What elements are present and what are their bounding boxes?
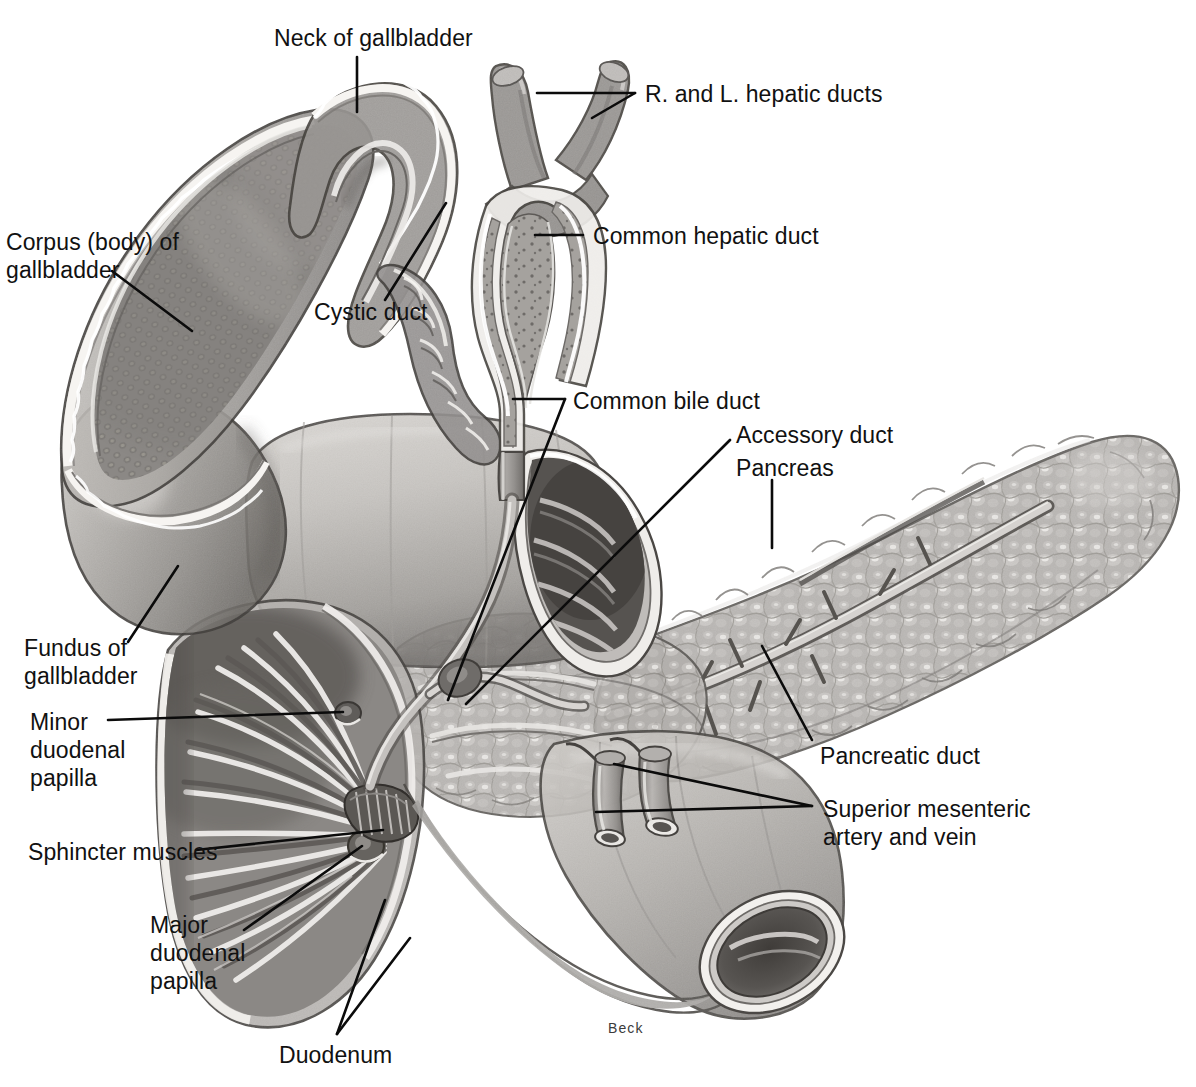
label-fundus-gallbladder-line2: gallbladder bbox=[24, 662, 138, 690]
label-major-duodenal-papilla: Major duodenal papilla bbox=[150, 911, 245, 995]
label-superior-mesenteric: Superior mesenteric artery and vein bbox=[823, 795, 1031, 851]
label-superior-mesenteric-line1: Superior mesenteric bbox=[823, 795, 1031, 823]
label-major-papilla-line1: Major bbox=[150, 911, 245, 939]
label-hepatic-ducts: R. and L. hepatic ducts bbox=[645, 80, 883, 108]
label-superior-mesenteric-line2: artery and vein bbox=[823, 823, 1031, 851]
label-major-papilla-line3: papilla bbox=[150, 967, 245, 995]
label-cystic-duct: Cystic duct bbox=[314, 298, 428, 326]
label-minor-papilla-line3: papilla bbox=[30, 764, 125, 792]
anatomical-figure: Neck of gallbladder R. and L. hepatic du… bbox=[0, 0, 1196, 1087]
artist-signature: Beck bbox=[608, 1020, 644, 1036]
label-pancreatic-duct: Pancreatic duct bbox=[820, 742, 980, 770]
label-fundus-gallbladder-line1: Fundus of bbox=[24, 634, 138, 662]
label-major-papilla-line2: duodenal bbox=[150, 939, 245, 967]
label-sphincter-muscles: Sphincter muscles bbox=[28, 838, 218, 866]
label-minor-papilla-line2: duodenal bbox=[30, 736, 125, 764]
label-minor-papilla-line1: Minor bbox=[30, 708, 125, 736]
label-duodenum: Duodenum bbox=[279, 1041, 392, 1069]
label-corpus-gallbladder-line1: Corpus (body) of bbox=[6, 228, 179, 256]
label-common-bile-duct: Common bile duct bbox=[573, 387, 760, 415]
label-accessory-duct: Accessory duct bbox=[736, 421, 893, 449]
label-neck-of-gallbladder: Neck of gallbladder bbox=[274, 24, 473, 52]
label-common-hepatic-duct: Common hepatic duct bbox=[593, 222, 819, 250]
label-corpus-gallbladder-line2: gallbladder bbox=[6, 256, 179, 284]
label-corpus-gallbladder: Corpus (body) of gallbladder bbox=[6, 228, 179, 284]
label-minor-duodenal-papilla: Minor duodenal papilla bbox=[30, 708, 125, 792]
label-pancreas: Pancreas bbox=[736, 454, 834, 482]
label-fundus-gallbladder: Fundus of gallbladder bbox=[24, 634, 138, 690]
